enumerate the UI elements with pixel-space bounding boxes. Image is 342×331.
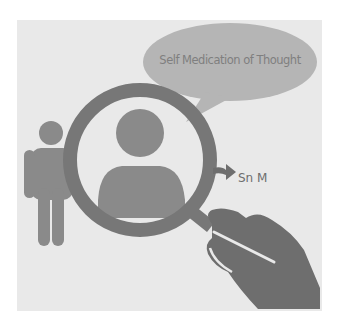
- arrow-label: Sn M: [238, 171, 267, 185]
- speech-bubble-icon: [143, 23, 317, 122]
- illustration-art: [0, 0, 342, 331]
- person-in-lens-icon: [98, 109, 185, 218]
- standing-person-icon: [24, 121, 73, 246]
- speech-bubble-text: Self Medication of Thought: [150, 53, 310, 67]
- hand-icon: [207, 208, 320, 309]
